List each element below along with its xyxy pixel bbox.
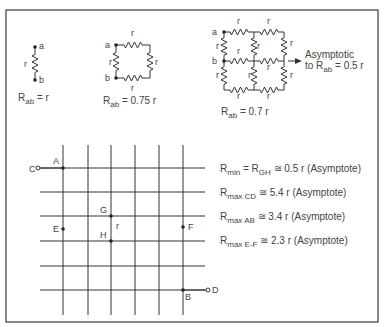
square-circuit	[113, 42, 153, 81]
node-a-dot	[222, 30, 226, 34]
resistor-symbol	[113, 45, 119, 78]
asymptotic-note-line1: Asymptotic	[305, 49, 354, 60]
terminal-d	[206, 288, 210, 292]
node-h-label: H	[100, 230, 107, 240]
node-b-label: b	[105, 73, 110, 83]
node-b-label: b	[212, 56, 217, 66]
resistor-label: r	[237, 16, 240, 26]
resistor-label: r	[267, 91, 270, 101]
resistor-network-diagram: a b r Rab = r a b r r r r Rab = 0.75 r a…	[0, 0, 384, 327]
resistor-symbol	[32, 47, 38, 80]
arrow-icon	[288, 58, 302, 64]
resistor-label: r	[290, 38, 293, 48]
node-a-dot	[33, 45, 37, 49]
result-rmax-cd: Rmax CD ≅ 5.4 r (Asymptote)	[220, 187, 346, 201]
resistor-label: r	[116, 221, 119, 231]
node-b-dot	[114, 76, 118, 80]
resistor-label: r	[216, 70, 219, 80]
node-b-dot	[222, 59, 226, 63]
resistor-symbol	[224, 29, 254, 35]
resistor-symbol	[251, 61, 257, 90]
square-equation: Rab = 0.75 r	[103, 95, 157, 109]
grid-equation: Rab = 0.7 r	[221, 106, 269, 120]
node-e-dot	[61, 227, 65, 231]
resistor-label: r	[267, 16, 270, 26]
node-d-label: D	[212, 285, 219, 295]
resistor-symbol	[221, 61, 227, 90]
node-b-label: b	[39, 75, 44, 85]
node-a-label: a	[212, 27, 217, 37]
resistor-label: r	[155, 57, 158, 67]
node-a-dot	[61, 166, 65, 170]
terminal-c	[36, 166, 40, 170]
single-equation: Rab = r	[18, 92, 50, 106]
node-f-dot	[181, 225, 185, 229]
node-b-dot	[33, 78, 37, 82]
resistor-label: r	[290, 70, 293, 80]
resistor-label: r	[109, 57, 112, 67]
node-c-label: C	[29, 164, 36, 174]
resistor-symbol	[281, 61, 287, 90]
asymptotic-note-line2: to Rab = 0.5 r	[305, 60, 364, 74]
result-rmax-ab: Rmax AB ≅ 3.4 r (Asymptote)	[220, 211, 345, 225]
resistor-label: r	[267, 62, 270, 72]
node-e-label: E	[53, 224, 59, 234]
resistor-symbol	[224, 58, 254, 64]
node-a-label: a	[39, 41, 44, 51]
infinite-grid	[36, 145, 210, 315]
resistor-label: r	[237, 91, 240, 101]
resistor-label: r	[216, 41, 219, 51]
resistor-symbol	[221, 32, 227, 61]
resistor-label: r	[237, 46, 240, 56]
resistor-label: r	[248, 70, 251, 80]
resistor-symbol	[116, 42, 150, 48]
result-rmin: Rmin = RGH ≅ 0.5 r (Asymptote)	[220, 163, 361, 177]
node-h-dot	[109, 239, 113, 243]
node-a-label: A	[53, 156, 59, 166]
node-a-label: a	[105, 40, 110, 50]
resistor-symbol	[254, 29, 284, 35]
resistor-symbol	[116, 75, 150, 81]
node-f-label: F	[188, 222, 194, 232]
resistor-label: r	[24, 59, 27, 69]
node-g-dot	[109, 214, 113, 218]
resistor-label: r	[257, 41, 260, 51]
single-resistor-circuit	[32, 45, 38, 82]
node-a-dot	[114, 43, 118, 47]
grid-2x2-circuit	[221, 29, 287, 93]
resistor-label: r	[131, 28, 134, 38]
resistor-symbol	[147, 45, 153, 78]
resistor-symbol	[281, 32, 287, 61]
result-rmax-ef: Rmax E-F ≅ 2.3 r (Asymptote)	[220, 235, 348, 249]
node-g-label: G	[100, 205, 107, 215]
resistor-label: r	[131, 83, 134, 93]
node-b-label: B	[185, 292, 191, 302]
